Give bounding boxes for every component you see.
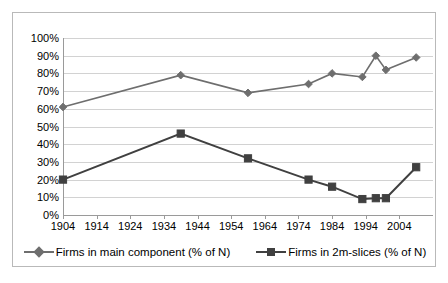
x-tick (97, 215, 98, 219)
x-tick (332, 215, 333, 219)
y-tick-label: 90% (15, 51, 59, 62)
square-marker-icon (413, 164, 420, 171)
diamond-marker-icon (33, 246, 44, 257)
square-marker-icon (328, 183, 335, 190)
diamond-marker-icon (412, 54, 420, 62)
legend-label: Firms in main component (% of N) (56, 246, 230, 259)
plot-wrapper: 0%10%20%30%40%50%60%70%80%90%100% 190419… (13, 13, 437, 268)
y-tick-label: 100% (15, 33, 59, 44)
x-tick (231, 215, 232, 219)
legend-item-2m-slices[interactable]: Firms in 2m-slices (% of N) (256, 246, 426, 259)
square-marker-icon (305, 176, 312, 183)
diamond-marker-icon (59, 103, 67, 111)
x-tick-label: 2004 (379, 220, 419, 233)
y-tick-label: 20% (15, 175, 59, 186)
data-series-group (63, 38, 433, 215)
x-axis-tick-labels: 1904191419241934194419541964197419841994… (63, 220, 433, 236)
y-tick-label: 30% (15, 157, 59, 168)
series-line (63, 134, 416, 199)
diamond-marker-icon (305, 80, 313, 88)
legend-swatch (256, 246, 286, 258)
diamond-marker-icon (328, 70, 336, 78)
square-marker-icon (372, 195, 379, 202)
y-tick-label: 80% (15, 68, 59, 79)
square-marker-icon (177, 130, 184, 137)
x-tick (298, 215, 299, 219)
series-main-component (59, 52, 420, 111)
square-marker-icon (382, 195, 389, 202)
square-marker-icon (244, 155, 251, 162)
x-tick (366, 215, 367, 219)
x-tick (198, 215, 199, 219)
legend-item-main-component[interactable]: Firms in main component (% of N) (24, 246, 230, 259)
y-tick-label: 10% (15, 192, 59, 203)
legend-label: Firms in 2m-slices (% of N) (288, 246, 426, 259)
diamond-marker-icon (177, 71, 185, 79)
x-tick (265, 215, 266, 219)
square-marker-icon (267, 248, 275, 256)
chart-legend: Firms in main component (% of N)Firms in… (13, 241, 437, 263)
diamond-marker-icon (244, 89, 252, 97)
y-tick-label: 40% (15, 139, 59, 150)
legend-swatch (24, 246, 54, 258)
series-2m-slices (59, 130, 419, 203)
x-tick (130, 215, 131, 219)
x-tick (63, 215, 64, 219)
diamond-marker-icon (359, 73, 367, 81)
x-tick (164, 215, 165, 219)
y-tick-label: 60% (15, 104, 59, 115)
square-marker-icon (59, 176, 66, 183)
series-line (63, 56, 416, 107)
y-tick-label: 50% (15, 122, 59, 133)
square-marker-icon (359, 195, 366, 202)
x-tick (399, 215, 400, 219)
y-tick-label: 70% (15, 86, 59, 97)
y-axis-tick-labels: 0%10%20%30%40%50%60%70%80%90%100% (13, 38, 59, 215)
chart-container: 0%10%20%30%40%50%60%70%80%90%100% 190419… (12, 12, 436, 267)
